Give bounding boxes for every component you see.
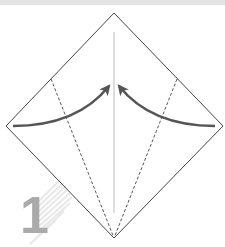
right-fold-arrow-icon bbox=[119, 86, 215, 126]
right-valley-fold-line bbox=[114, 79, 177, 238]
step-number: 1 bbox=[20, 189, 49, 241]
left-fold-arrow-icon bbox=[13, 86, 109, 126]
